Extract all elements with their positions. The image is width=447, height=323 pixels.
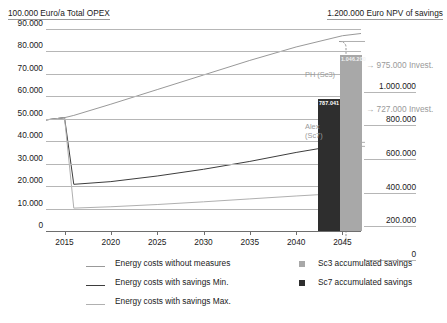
bar-sc3 xyxy=(340,55,362,231)
gridline xyxy=(46,209,361,210)
y-tick-label: 50.000 xyxy=(18,108,43,118)
legend-label: Energy costs with savings Min. xyxy=(115,277,228,287)
alex-sc7-callout-line: (Sc7) xyxy=(305,132,323,141)
y-tick-label: 20.000 xyxy=(18,175,43,185)
x-tick-mark xyxy=(111,231,112,235)
y-tick-label: 60.000 xyxy=(18,85,43,95)
y2-tick-label: 400.000 xyxy=(364,182,416,192)
arrow-right-icon: → xyxy=(366,104,377,114)
legend-line-swatch xyxy=(86,266,105,267)
x-axis: 2015202020252030203520402045 xyxy=(46,231,361,253)
right-axis-tickline xyxy=(364,92,416,93)
y-tick-label: 0 xyxy=(38,220,43,230)
legend-square-swatch xyxy=(299,261,305,267)
legend-line-swatch xyxy=(86,304,105,305)
invest-975-label: → 975.000 Invest. xyxy=(366,60,433,70)
x-tick-mark xyxy=(342,231,343,235)
gridline xyxy=(46,96,361,97)
legend-label: Energy costs with savings Max. xyxy=(115,296,231,306)
bar-sc7 xyxy=(318,99,340,231)
legend-label: Sc7 accumulated savings xyxy=(318,277,412,287)
right-axis-tickline xyxy=(364,159,416,160)
right-axis-tickline xyxy=(364,226,416,227)
right-axis-title: 1.200.000 Euro NPV of savings xyxy=(327,8,443,20)
bar-value-label: 1.046.200 xyxy=(341,56,361,62)
legend-square-swatch xyxy=(299,280,305,286)
gridline xyxy=(46,186,361,187)
y-tick-label: 40.000 xyxy=(18,130,43,140)
x-tick-label: 2045 xyxy=(333,237,351,247)
gridline xyxy=(46,119,361,120)
ph-sc3-callout-line: PH (Sc3) xyxy=(305,71,335,80)
gridline xyxy=(46,141,361,142)
y2-tick-label: 600.000 xyxy=(364,148,416,158)
x-tick-label: 2020 xyxy=(102,237,120,247)
y2-tick-label: 200.000 xyxy=(364,215,416,225)
ph-sc3-callout: PH (Sc3) xyxy=(305,71,335,80)
y-tick-label: 30.000 xyxy=(18,153,43,163)
x-tick-mark xyxy=(250,231,251,235)
bar-value-label: 787.041 xyxy=(319,100,339,106)
x-tick-mark xyxy=(296,231,297,235)
x-tick-label: 2035 xyxy=(241,237,259,247)
x-tick-label: 2030 xyxy=(194,237,212,247)
gridline xyxy=(46,164,361,165)
x-tick-label: 2015 xyxy=(55,237,73,247)
invest-727-label-text: 727.000 Invest. xyxy=(377,104,434,114)
y2-tick-label: 800.000 xyxy=(364,114,416,124)
x-tick-mark xyxy=(157,231,158,235)
legend-line-swatch xyxy=(86,285,105,286)
legend-label: Energy costs without measures xyxy=(115,258,230,268)
gridline xyxy=(46,29,361,30)
left-axis: 010.00020.00030.00040.00050.00060.00070.… xyxy=(0,29,43,231)
alex-sc7-callout: Alex(Sc7) xyxy=(305,123,323,140)
arrow-right-icon: → xyxy=(366,60,377,70)
x-tick-mark xyxy=(65,231,66,235)
y-tick-label: 90.000 xyxy=(18,18,43,28)
invest-727-label: → 727.000 Invest. xyxy=(366,104,433,114)
right-axis-tickline xyxy=(364,125,416,126)
y2-tick-label: 1.000.000 xyxy=(364,81,416,91)
chart-root: 100.000 Euro/a Total OPEX 1.200.000 Euro… xyxy=(0,0,447,323)
y-tick-label: 70.000 xyxy=(18,63,43,73)
legend-label: Sc3 accumulated savings xyxy=(318,258,412,268)
y-tick-label: 80.000 xyxy=(18,40,43,50)
right-axis-tickline xyxy=(364,193,416,194)
y-tick-label: 10.000 xyxy=(18,198,43,208)
legend: Energy costs without measuresEnergy cost… xyxy=(0,258,447,320)
x-tick-label: 2025 xyxy=(148,237,166,247)
invest-975-label-text: 975.000 Invest. xyxy=(377,60,434,70)
x-tick-mark xyxy=(204,231,205,235)
x-tick-label: 2040 xyxy=(287,237,305,247)
gridline xyxy=(46,51,361,52)
bars-group: 787.0411.046.200 xyxy=(318,29,364,231)
